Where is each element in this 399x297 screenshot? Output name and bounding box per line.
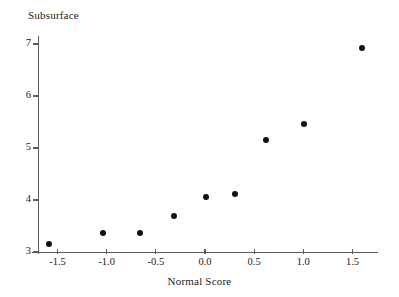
y-tick-label: 3 [18,245,31,256]
x-tick-mark [155,249,156,254]
x-tick-label: -1.5 [38,256,78,267]
y-tick-mark [33,147,39,148]
y-tick-mark [33,251,39,252]
x-tick-label: 1.0 [283,256,323,267]
x-tick-label: 0.0 [185,256,225,267]
y-tick-label: 5 [18,141,31,152]
y-tick-label: 7 [18,37,31,48]
y-tick-mark [33,199,39,200]
x-tick-mark [106,249,107,254]
x-tick-label: -0.5 [136,256,176,267]
data-point [359,45,365,51]
data-point [100,230,106,236]
plot-area: 76543 -1.5-1.0-0.50.00.51.01.5 [0,0,399,297]
data-point [301,121,307,127]
x-tick-mark [352,249,353,254]
x-tick-mark [254,249,255,254]
data-point [137,230,143,236]
normal-probability-plot: Subsurface 76543 -1.5-1.0-0.50.00.51.01.… [0,0,399,297]
x-tick-label: 0.5 [234,256,274,267]
x-tick-label: 1.5 [332,256,372,267]
y-tick-label: 6 [18,89,31,100]
x-tick-label: -1.0 [87,256,127,267]
data-point [232,191,238,197]
x-tick-mark [204,249,205,254]
y-tick-mark [33,43,39,44]
data-point [203,194,209,200]
data-point [171,213,177,219]
data-point [263,137,269,143]
x-axis-title: Normal Score [0,275,399,287]
data-point [46,241,52,247]
x-tick-mark [303,249,304,254]
x-tick-mark [57,249,58,254]
y-axis-line [38,36,39,254]
y-tick-mark [33,95,39,96]
y-tick-label: 4 [18,193,31,204]
